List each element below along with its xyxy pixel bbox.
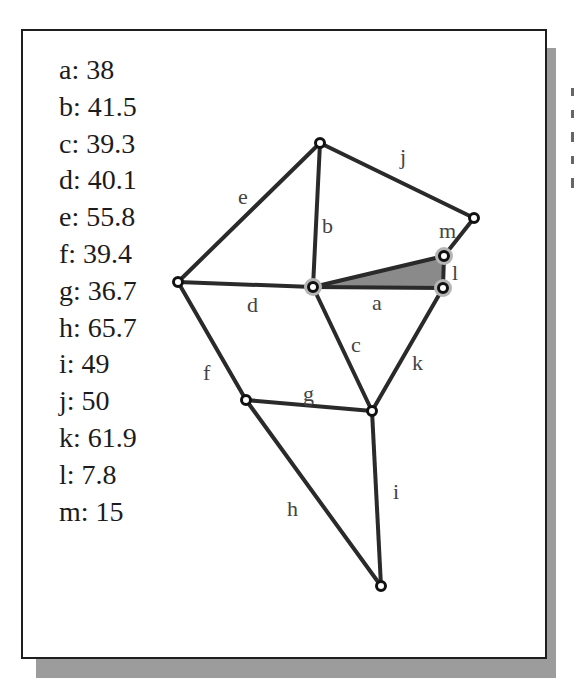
graph-diagram: a b c d e f g h i j k l m: [0, 0, 577, 685]
edge-f[interactable]: [178, 282, 246, 400]
edge-label-i: i: [393, 479, 399, 504]
graph-node[interactable]: [377, 582, 386, 591]
graph-node-selected[interactable]: [440, 252, 449, 261]
graph-node[interactable]: [174, 278, 183, 287]
edge-label-h: h: [287, 496, 298, 521]
edge-b[interactable]: [313, 143, 320, 287]
edge-c[interactable]: [313, 287, 372, 411]
edge-h[interactable]: [246, 400, 381, 586]
edge-j[interactable]: [320, 143, 474, 218]
edge-k[interactable]: [372, 288, 443, 411]
edge-label-a: a: [372, 290, 382, 315]
edge-e[interactable]: [178, 143, 320, 282]
graph-node[interactable]: [368, 407, 377, 416]
graph-node[interactable]: [470, 214, 479, 223]
graph-node[interactable]: [242, 396, 251, 405]
graph-node[interactable]: [316, 139, 325, 148]
edge-label-f: f: [203, 360, 211, 385]
edge-a[interactable]: [313, 287, 443, 288]
edge-label-b: b: [322, 213, 333, 238]
edge-label-k: k: [412, 350, 423, 375]
edge-label-e: e: [238, 184, 248, 209]
edge-label-c: c: [351, 332, 361, 357]
edge-label-j: j: [399, 144, 406, 169]
edge-label-g: g: [303, 381, 314, 406]
graph-node-selected[interactable]: [309, 283, 318, 292]
page-edge-marks: [571, 88, 577, 202]
edge-d[interactable]: [178, 282, 313, 287]
edge-label-l: l: [452, 260, 458, 285]
edge-i[interactable]: [372, 411, 381, 586]
edge-label-m: m: [439, 218, 456, 243]
edge-label-d: d: [247, 292, 258, 317]
graph-node-selected[interactable]: [439, 284, 448, 293]
